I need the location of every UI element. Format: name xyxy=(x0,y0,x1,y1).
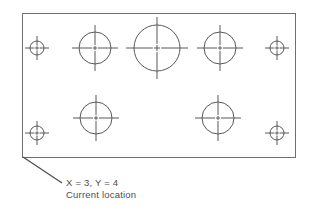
feature-circle-top-center[interactable] xyxy=(126,17,188,79)
technical-drawing: X = 3, Y = 4 Current location xyxy=(0,0,313,215)
feature-target-bottom-right[interactable] xyxy=(265,121,289,145)
diagram-canvas: X = 3, Y = 4 Current location xyxy=(0,0,313,215)
current-location-label: Current location xyxy=(66,189,136,200)
feature-target-top-left[interactable] xyxy=(25,36,49,60)
coordinate-label: X = 3, Y = 4 xyxy=(66,177,118,188)
feature-group xyxy=(25,17,289,145)
feature-circle-bottom-right[interactable] xyxy=(195,95,241,141)
feature-target-bottom-left[interactable] xyxy=(25,121,49,145)
callout-leader-line-icon xyxy=(23,157,62,183)
feature-circle-top-right[interactable] xyxy=(197,25,243,71)
bed-outline-rect xyxy=(23,14,296,158)
feature-target-top-right[interactable] xyxy=(265,36,289,60)
feature-circle-bottom-left[interactable] xyxy=(73,95,119,141)
feature-circle-top-left[interactable] xyxy=(72,25,118,71)
